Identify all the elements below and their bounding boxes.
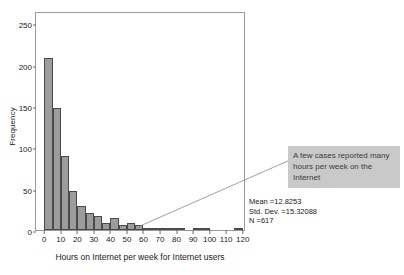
y-axis-tick: 100 [19, 145, 36, 154]
x-axis-tick-label: 10 [56, 235, 65, 244]
x-axis-tick-label: 20 [73, 235, 82, 244]
histogram-bar [53, 108, 61, 230]
statistics-block: Mean =12.8253 Std. Dev. =15.32088 N =617 [249, 197, 317, 226]
histogram-bar [110, 218, 118, 230]
y-axis-tick-label: 250 [19, 21, 33, 30]
y-axis-tick: 150 [19, 104, 36, 113]
histogram-bar [102, 223, 110, 230]
x-axis-tick: 0 [42, 230, 46, 244]
x-axis-tick-mark [193, 230, 194, 234]
histogram-chart: 050100150200250 010203040506070809010011… [0, 0, 404, 275]
x-axis-tick: 60 [139, 230, 148, 244]
y-axis-tick: 200 [19, 62, 36, 71]
y-axis-title: Frequency [8, 66, 17, 186]
x-axis-tick: 20 [73, 230, 82, 244]
x-axis-tick-mark [77, 230, 78, 234]
y-axis-tick-label: 100 [19, 145, 33, 154]
y-axis-tick-mark [33, 25, 36, 26]
x-axis-tick: 70 [156, 230, 165, 244]
y-axis-tick-mark [33, 232, 36, 233]
x-axis-tick: 30 [89, 230, 98, 244]
callout-box: A few cases reported many hours per week… [288, 146, 400, 188]
x-axis-tick-label: 100 [203, 235, 216, 244]
histogram-bar [44, 58, 52, 230]
x-axis-tick: 110 [220, 230, 233, 244]
x-axis-tick-mark [242, 230, 243, 234]
x-axis-tick-mark [44, 230, 45, 234]
histogram-bar [86, 213, 94, 230]
y-axis-tick-label: 50 [23, 186, 33, 195]
y-axis-tick-mark [33, 66, 36, 67]
x-axis-tick-mark [160, 230, 161, 234]
x-axis-tick-label: 110 [220, 235, 233, 244]
y-axis-tick-mark [33, 108, 36, 109]
callout-text: A few cases reported many hours per week… [293, 151, 390, 182]
histogram-bar [69, 191, 77, 230]
x-axis-tick: 40 [106, 230, 115, 244]
x-axis-tick-mark [226, 230, 227, 234]
histogram-bar [94, 216, 102, 230]
y-axis-tick-mark [33, 190, 36, 191]
histogram-bar [61, 156, 69, 230]
y-axis-tick-label: 150 [19, 104, 33, 113]
x-axis-tick-label: 120 [236, 235, 249, 244]
x-axis-tick-mark [93, 230, 94, 234]
x-axis-tick: 10 [56, 230, 65, 244]
x-axis-tick: 120 [236, 230, 249, 244]
x-axis-tick-label: 40 [106, 235, 115, 244]
x-axis-tick-label: 0 [42, 235, 46, 244]
x-axis-tick: 100 [203, 230, 216, 244]
x-axis-tick-mark [209, 230, 210, 234]
x-axis-tick-label: 30 [89, 235, 98, 244]
stat-mean: Mean =12.8253 [249, 197, 317, 207]
x-axis-tick-mark [126, 230, 127, 234]
histogram-bar [77, 206, 85, 230]
y-axis-tick-label: 200 [19, 62, 33, 71]
x-axis-tick-mark [110, 230, 111, 234]
x-axis-tick-label: 60 [139, 235, 148, 244]
x-axis-tick-mark [143, 230, 144, 234]
x-axis-tick-label: 90 [189, 235, 198, 244]
x-axis-title: Hours on Internet per week for Internet … [35, 252, 245, 262]
x-axis-tick-mark [60, 230, 61, 234]
x-axis-tick: 80 [172, 230, 181, 244]
stat-std-dev: Std. Dev. =15.32088 [249, 207, 317, 217]
x-axis-tick-label: 70 [156, 235, 165, 244]
y-axis-tick: 0 [28, 228, 36, 237]
x-axis-tick: 90 [189, 230, 198, 244]
y-axis-tick-mark [33, 149, 36, 150]
plot-area [36, 13, 244, 230]
x-axis-tick: 50 [122, 230, 131, 244]
y-axis-tick: 50 [23, 186, 36, 195]
plot-frame: 050100150200250 010203040506070809010011… [35, 12, 245, 231]
x-axis-tick-label: 50 [122, 235, 131, 244]
x-axis-tick-label: 80 [172, 235, 181, 244]
x-axis-tick-mark [176, 230, 177, 234]
histogram-bar [127, 223, 135, 230]
y-axis-tick: 250 [19, 21, 36, 30]
stat-n: N =617 [249, 216, 317, 226]
